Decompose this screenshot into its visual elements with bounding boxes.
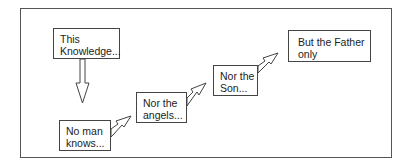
node-no-man-knows: No man knows... xyxy=(59,120,111,151)
node-nor-the-angels: Nor the angels... xyxy=(136,92,187,123)
node-but-the-father-only: But the Father only xyxy=(288,30,371,62)
node-this-knowledge: This Knowledge... xyxy=(53,28,120,59)
node-nor-the-son: Nor the Son... xyxy=(213,65,258,96)
